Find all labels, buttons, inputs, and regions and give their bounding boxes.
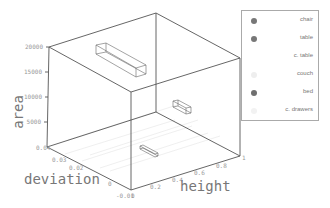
legend-item-table: table bbox=[242, 31, 318, 49]
x-tick: 0.02 bbox=[69, 164, 84, 171]
legend-item-c-drawers: c. drawers bbox=[242, 103, 318, 121]
legend-item-couch: couch bbox=[242, 67, 318, 85]
z-axis-title: area bbox=[10, 95, 26, 129]
box-couch bbox=[173, 100, 191, 114]
legend-label: chair bbox=[300, 16, 313, 22]
box-bed bbox=[96, 43, 146, 77]
y-tick: 0.8 bbox=[216, 162, 227, 169]
box-table bbox=[140, 145, 158, 157]
floor-grid bbox=[65, 105, 220, 171]
y-tick: 0.2 bbox=[150, 183, 161, 190]
z-tick: 10000 bbox=[24, 93, 42, 100]
legend-label: c. drawers bbox=[285, 106, 313, 112]
legend-marker-icon bbox=[251, 108, 257, 114]
legend-marker-icon bbox=[251, 90, 257, 96]
legend-marker-icon bbox=[251, 18, 257, 24]
z-tick: 5000 bbox=[27, 118, 42, 125]
legend-label: c. table bbox=[294, 52, 313, 58]
y-tick: 0 bbox=[131, 192, 135, 199]
x-tick: 0.03 bbox=[52, 156, 67, 163]
legend-label: table bbox=[300, 34, 313, 40]
legend-item-bed: bed bbox=[242, 85, 318, 103]
x-tick: 0 bbox=[108, 180, 112, 187]
legend-label: couch bbox=[297, 70, 313, 76]
legend-marker-icon bbox=[251, 36, 257, 42]
z-tick: 20000 bbox=[25, 43, 43, 50]
z-axis-ticks: 20000 15000 10000 5000 bbox=[24, 43, 49, 125]
legend-item-c-table: c. table bbox=[242, 49, 318, 67]
legend-label: bed bbox=[303, 88, 313, 94]
y-tick: 1 bbox=[242, 154, 246, 161]
legend: chair table c. table couch bed c. drawer… bbox=[241, 10, 319, 121]
z-tick: 15000 bbox=[24, 68, 42, 75]
y-axis-title: height bbox=[180, 178, 231, 194]
x-tick: 0.04 bbox=[36, 144, 51, 151]
legend-marker-icon bbox=[251, 54, 257, 60]
legend-marker-icon bbox=[251, 72, 257, 78]
x-axis-title: deviation bbox=[24, 171, 100, 187]
legend-item-chair: chair bbox=[242, 13, 318, 31]
y-tick: 0.6 bbox=[194, 169, 205, 176]
